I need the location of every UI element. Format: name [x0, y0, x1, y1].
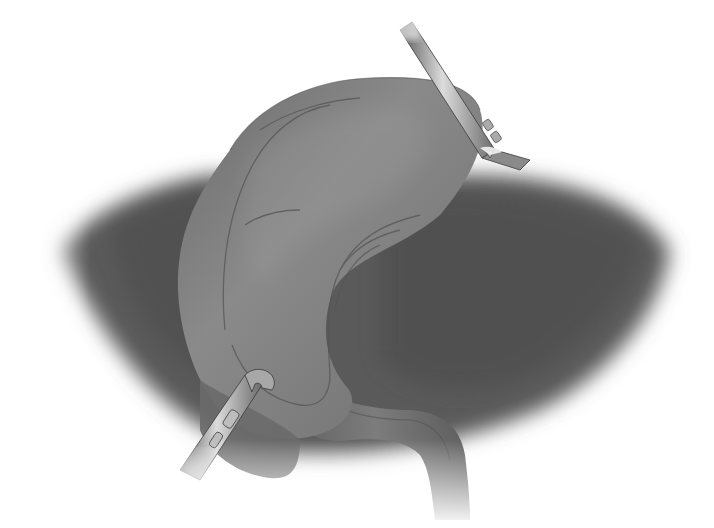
- gallbladder-illustration: [0, 0, 714, 528]
- illustration-canvas: [0, 0, 714, 528]
- bottom-fade: [0, 440, 714, 528]
